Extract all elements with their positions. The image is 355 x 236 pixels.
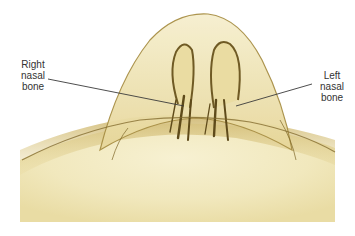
nasal-bone-diagram: Right nasal bone Left nasal bone — [0, 0, 355, 236]
left-nasal-bone-label: Left nasal bone — [314, 70, 350, 103]
ultrasound-illustration — [0, 0, 355, 236]
right-nasal-bone-label: Right nasal bone — [13, 59, 53, 92]
right-arch — [211, 42, 240, 108]
